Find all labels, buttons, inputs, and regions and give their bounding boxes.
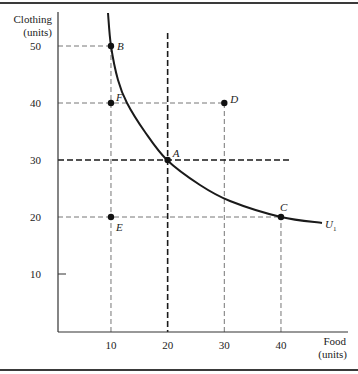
point-b: [108, 43, 114, 49]
reference-lines: [58, 33, 292, 332]
indifference-curve-u1: [108, 13, 322, 223]
axes: [58, 12, 348, 332]
point-label-d: D: [229, 93, 238, 105]
x-axis-title-line1: Food: [323, 335, 346, 347]
point-label-e: E: [115, 221, 123, 233]
point-a: [164, 157, 170, 163]
curve-label-u1: U1: [325, 218, 337, 233]
indifference-curve-chart: 1020304050 10203040 Clothing (units) Foo…: [0, 0, 358, 374]
y-axis-title-line2: (units): [23, 26, 52, 39]
point-label-c: C: [280, 201, 288, 213]
point-label-f: F: [115, 91, 123, 103]
point-e: [108, 214, 114, 220]
y-tick-label: 30: [30, 154, 42, 166]
x-tick-label: 20: [162, 339, 174, 351]
x-tick-label: 40: [275, 339, 287, 351]
y-tick-label: 40: [30, 97, 42, 109]
y-tick-label: 20: [30, 211, 42, 223]
point-d: [221, 100, 227, 106]
dashed-guide-lines: [58, 46, 281, 332]
point-label-b: B: [117, 40, 124, 52]
point-label-a: A: [172, 147, 180, 159]
point-f: [108, 100, 114, 106]
y-tick-label: 50: [30, 40, 42, 52]
x-tick-label: 30: [219, 339, 231, 351]
point-c: [278, 214, 284, 220]
bundle-points: ABCDEF: [108, 40, 288, 233]
y-tick-label: 10: [30, 268, 42, 280]
x-axis-title-line2: (units): [318, 348, 347, 361]
x-tick-labels: 10203040: [105, 339, 287, 351]
y-axis-title-line1: Clothing: [13, 13, 52, 25]
x-tick-label: 10: [105, 339, 117, 351]
